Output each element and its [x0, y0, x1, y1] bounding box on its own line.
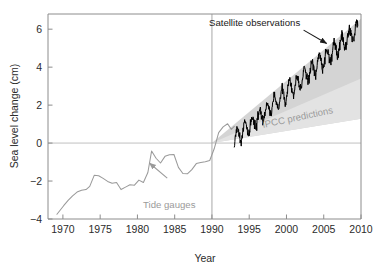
tide-gauges-label: Tide gauges	[143, 199, 196, 210]
x-tick-label: 2000	[275, 223, 299, 235]
x-tick-label: 1980	[126, 223, 150, 235]
x-tick-label: 1970	[51, 223, 75, 235]
x-tick-label: 1995	[238, 223, 262, 235]
x-tick-label: 1990	[200, 223, 224, 235]
sea-level-chart-figure: −4−20246 1970197519801985199019952000200…	[0, 0, 383, 272]
y-tick-label: −2	[30, 175, 42, 187]
y-tick-label: 4	[36, 61, 42, 73]
y-tick-label: 6	[36, 23, 42, 35]
x-tick-label: 2010	[349, 223, 373, 235]
y-tick-label: −4	[30, 213, 42, 225]
y-tick-label: 2	[36, 99, 42, 111]
x-tick-label: 1975	[88, 223, 112, 235]
y-axis-title: Sea level change (cm)	[8, 64, 20, 168]
x-axis-title: Year	[194, 252, 216, 264]
chart-canvas: −4−20246 1970197519801985199019952000200…	[0, 0, 383, 272]
x-tick-label: 1985	[163, 223, 187, 235]
satellite-observations-label: Satellite observations	[209, 17, 300, 28]
x-tick-label: 2005	[312, 223, 336, 235]
y-tick-label: 0	[36, 137, 42, 149]
